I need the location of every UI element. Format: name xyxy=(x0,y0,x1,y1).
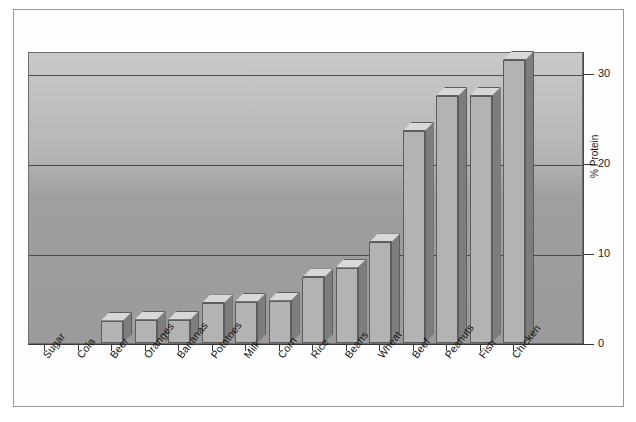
y-tick-30 xyxy=(583,74,594,75)
bar-front-face xyxy=(403,131,425,343)
bar-corn xyxy=(269,292,300,343)
bar-beef xyxy=(403,122,434,343)
bar-side-face xyxy=(391,233,400,343)
bar-rice xyxy=(302,268,333,343)
bar-side-face xyxy=(425,122,434,343)
bar-front-face xyxy=(503,60,525,343)
bar-side-face xyxy=(324,268,333,343)
y-tick-label-0: 0 xyxy=(598,338,604,349)
bar-milk xyxy=(235,293,266,343)
chart-screenshot: 0102030 % Protein SugarColaBeerOrangesBa… xyxy=(0,0,636,422)
bar-side-face xyxy=(458,87,467,343)
bar-beer xyxy=(101,312,132,343)
bar-front-face xyxy=(369,242,391,343)
y-tick-label-30: 30 xyxy=(598,68,610,79)
plot-area xyxy=(28,52,583,344)
bar-front-face xyxy=(302,277,324,343)
bar-peanuts xyxy=(436,87,467,343)
y-axis-title: % Protein xyxy=(589,135,600,178)
bar-front-face xyxy=(336,268,358,343)
bar-front-face xyxy=(436,96,458,343)
bar-side-face xyxy=(492,87,501,343)
bar-wheat xyxy=(369,233,400,343)
y-axis-line xyxy=(583,52,584,345)
bars-layer xyxy=(29,53,582,343)
y-tick-10 xyxy=(583,254,594,255)
bar-fish xyxy=(470,87,501,343)
bar-chicken xyxy=(503,51,534,343)
bar-side-face xyxy=(525,51,534,343)
bar-front-face xyxy=(470,96,492,343)
y-tick-label-10: 10 xyxy=(598,248,610,259)
y-tick-0 xyxy=(583,344,594,345)
